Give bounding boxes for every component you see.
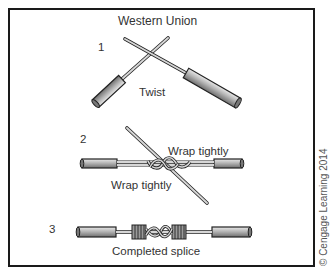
step-3-wires: [76, 225, 252, 239]
splice-illustration: [0, 0, 331, 276]
step-1-wires: [91, 38, 243, 109]
step-2-wires: [80, 128, 244, 203]
